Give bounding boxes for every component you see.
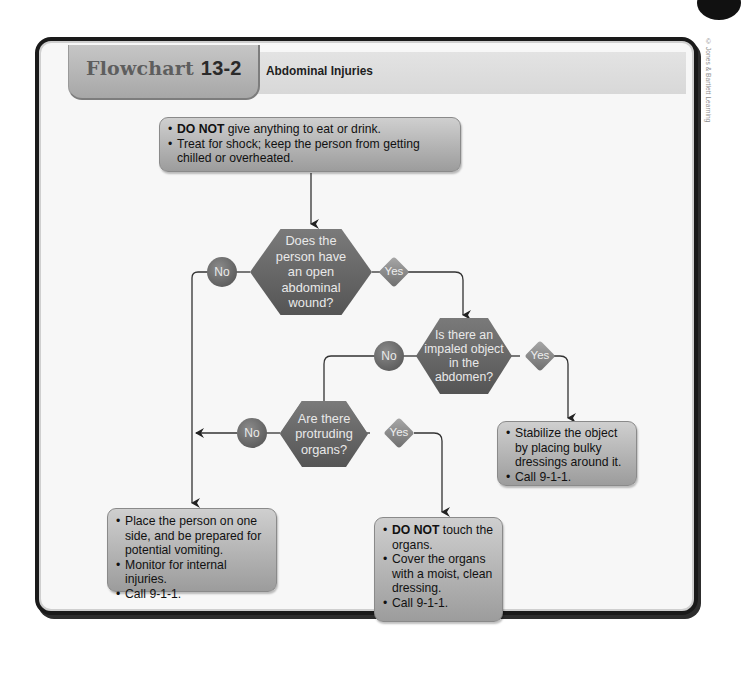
start-item-1: • DO NOT give anything to eat or drink. [168,122,452,137]
stabilize-item-2: • Call 9-1-1. [506,470,628,485]
organs-item-3: • Call 9-1-1. [383,596,494,611]
side-position-box: • Place the person on one side, and be p… [107,508,277,592]
side-item-1: • Place the person on one side, and be p… [116,514,268,558]
protruding-organs-box: • DO NOT touch the organs. • Cover the o… [374,517,503,622]
yes-label-protruding-organs: Yes [379,426,419,438]
organs-item-1: • DO NOT touch the organs. [383,523,494,552]
yes-label-impaled-object: Yes [520,349,560,361]
stabilize-item-1: • Stabilize the object by placing bulky … [506,426,628,470]
no-badge-protruding-organs: No [237,418,267,448]
stabilize-object-box: • Stabilize the object by placing bulky … [497,421,637,486]
no-badge-open-wound: No [207,257,237,287]
start-item-2: • Treat for shock; keep the person from … [168,137,452,166]
side-item-3: • Call 9-1-1. [116,587,268,602]
start-instructions-box: • DO NOT give anything to eat or drink. … [159,117,461,172]
side-item-2: • Monitor for internal injuries. [116,558,268,587]
organs-item-2: • Cover the organs with a moist, clean d… [383,552,494,596]
yes-label-open-wound: Yes [374,265,414,277]
no-badge-impaled-object: No [374,341,404,371]
